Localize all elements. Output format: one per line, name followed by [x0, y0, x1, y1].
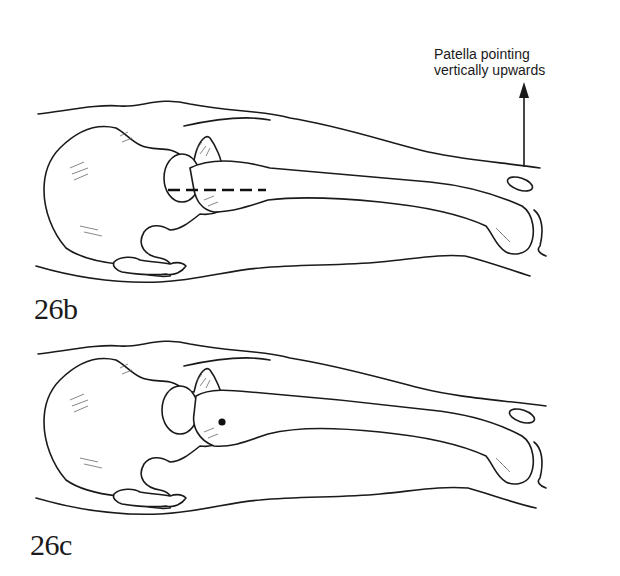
patella-annotation: Patella pointing vertically upwards — [434, 46, 545, 78]
annotation-line-1: Patella pointing — [434, 46, 545, 62]
femur-bone — [194, 390, 534, 484]
figure-label-26b: 26b — [34, 292, 78, 326]
femoral-head — [162, 386, 198, 434]
figure-label-26c: 26c — [30, 528, 72, 562]
hip-femur-illustration-26b — [0, 0, 620, 300]
knee-joint-line — [534, 442, 546, 488]
skin-fold — [184, 358, 270, 366]
figure-26c — [0, 330, 620, 530]
arrow-up-icon — [519, 82, 529, 98]
figure-26b: Patella pointing vertically upwards — [0, 0, 620, 300]
annotation-line-2: vertically upwards — [434, 62, 545, 78]
hip-femur-illustration-26c — [0, 330, 620, 530]
patella — [506, 174, 534, 193]
patella — [508, 406, 536, 425]
knee-joint-line — [534, 210, 546, 256]
femur-bone — [190, 161, 533, 254]
skin-fold — [184, 118, 270, 126]
femoral-neck-dot-marker — [218, 418, 225, 425]
